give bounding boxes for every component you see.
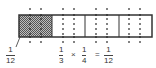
grid-dot	[128, 41, 130, 43]
grid-dot	[40, 33, 42, 35]
grid-dot	[40, 18, 42, 20]
grid-dot	[40, 8, 42, 10]
grid-dot	[128, 23, 130, 25]
grid-dot	[29, 33, 31, 35]
grid-dot	[29, 41, 31, 43]
grid-dot	[139, 14, 141, 16]
grid-dot	[128, 36, 130, 38]
grid-dot	[40, 41, 42, 43]
grid-dot	[139, 8, 141, 10]
grid-dot	[73, 18, 75, 20]
grid-dot	[128, 33, 130, 35]
grid-dot	[139, 36, 141, 38]
grid-dot	[73, 41, 75, 43]
term1-denominator: 3	[59, 57, 63, 65]
grid-dot	[62, 33, 64, 35]
grid-dot	[106, 36, 108, 38]
grid-dot	[139, 41, 141, 43]
grid-dot	[29, 8, 31, 10]
equation-term2: 1 4	[82, 46, 86, 65]
grid-dot	[128, 18, 130, 20]
grid-dot	[139, 23, 141, 25]
grid-dot	[73, 36, 75, 38]
grid-dot	[29, 23, 31, 25]
grid-dot	[62, 36, 64, 38]
term2-denominator: 4	[82, 57, 86, 65]
grid-dot	[29, 14, 31, 16]
grid-dot	[95, 8, 97, 10]
grid-dot	[40, 23, 42, 25]
grid-dot	[40, 14, 42, 16]
grid-dot	[139, 28, 141, 30]
grid-dot	[62, 8, 64, 10]
grid-dot	[106, 28, 108, 30]
grid-dot	[128, 28, 130, 30]
callout-leader-line	[16, 37, 20, 47]
grid-dot	[95, 36, 97, 38]
term2-numerator: 1	[82, 46, 86, 54]
grid-dot	[106, 33, 108, 35]
equation-result: 1 12	[104, 46, 113, 65]
grid-dot	[95, 14, 97, 16]
grid-dot	[62, 41, 64, 43]
grid-dot	[73, 8, 75, 10]
equation-term1: 1 3	[59, 46, 63, 65]
result-denominator: 12	[104, 57, 113, 65]
grid-dot	[106, 14, 108, 16]
result-numerator: 1	[106, 46, 110, 54]
grid-dot	[139, 33, 141, 35]
grid-dot	[29, 18, 31, 20]
grid-dot	[73, 14, 75, 16]
grid-dot	[106, 18, 108, 20]
grid-dot	[73, 28, 75, 30]
grid-dot	[95, 23, 97, 25]
grid-dot	[40, 36, 42, 38]
grid-dot	[106, 23, 108, 25]
grid-dot	[95, 18, 97, 20]
grid-dot	[139, 18, 141, 20]
grid-dot	[29, 36, 31, 38]
grid-dot	[62, 28, 64, 30]
callout-denominator: 12	[6, 57, 15, 65]
grid-dot	[95, 33, 97, 35]
grid-dot	[95, 28, 97, 30]
term1-numerator: 1	[59, 46, 63, 54]
grid-dot	[128, 8, 130, 10]
grid-dot	[106, 8, 108, 10]
shaded-region	[19, 15, 52, 37]
grid-dot	[128, 14, 130, 16]
grid-dot	[40, 28, 42, 30]
grid-dot	[95, 41, 97, 43]
times-operator: ×	[71, 51, 76, 59]
grid-dot	[73, 23, 75, 25]
area-model-diagram	[0, 0, 156, 68]
callout-fraction-label: 1 12	[6, 46, 15, 65]
grid-dot	[62, 18, 64, 20]
callout-numerator: 1	[8, 46, 12, 54]
equals-operator: =	[95, 51, 100, 59]
grid-dot	[73, 33, 75, 35]
grid-dot	[62, 14, 64, 16]
grid-dot	[29, 28, 31, 30]
grid-dot	[62, 23, 64, 25]
grid-dot	[106, 41, 108, 43]
